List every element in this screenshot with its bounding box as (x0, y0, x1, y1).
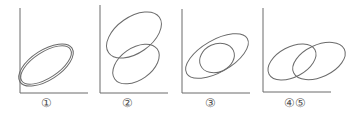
panel-1 (12, 8, 88, 94)
panel-2 (98, 2, 169, 93)
ellipse-small (195, 38, 239, 79)
panel-4-5-label: ④⑤ (275, 96, 315, 110)
panel-3 (179, 9, 256, 93)
ellipse-large (179, 25, 256, 88)
ellipse-outer (12, 36, 80, 95)
panel-2-label: ② (107, 96, 147, 110)
ellipse-right (287, 35, 351, 88)
ellipse-lower (106, 36, 167, 92)
panel-3-label: ③ (190, 96, 230, 110)
panel-4-5 (262, 8, 351, 92)
panel-1-label: ① (26, 96, 66, 110)
